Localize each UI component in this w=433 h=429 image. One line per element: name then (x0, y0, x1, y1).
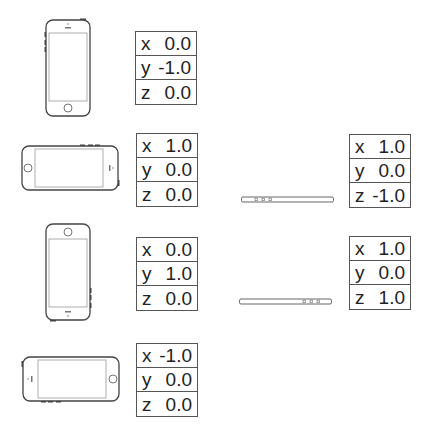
axis-label: z (142, 185, 152, 204)
axis-row-y: y0.0 (350, 261, 410, 285)
axis-row-y: y-1.0 (136, 56, 196, 80)
axis-value: -1.0 (159, 346, 192, 365)
axis-value: 0.0 (166, 289, 192, 308)
axis-value: 0.0 (166, 160, 192, 179)
axis-row-x: x1.0 (350, 135, 410, 159)
axis-label: y (142, 370, 152, 389)
axis-row-z: z0.0 (137, 182, 197, 206)
axis-label: x (142, 136, 152, 155)
accelerometer-table-landscape-right: x-1.0 y0.0 z0.0 (136, 343, 198, 417)
axis-label: x (141, 34, 151, 53)
axis-value: 0.0 (165, 83, 191, 102)
axis-label: x (355, 239, 365, 258)
axis-label: x (142, 240, 152, 259)
axis-label: y (355, 263, 365, 282)
accelerometer-table-portrait: x0.0 y-1.0 z0.0 (135, 31, 197, 105)
phone-landscape-left-icon (20, 144, 120, 192)
axis-row-x: x0.0 (137, 238, 197, 262)
axis-label: x (142, 346, 152, 365)
axis-row-z: z0.0 (136, 80, 196, 104)
axis-value: -1.0 (158, 58, 191, 77)
axis-label: x (355, 137, 365, 156)
axis-value: 0.0 (165, 34, 191, 53)
axis-value: 1.0 (379, 288, 405, 307)
axis-value: 0.0 (166, 395, 192, 414)
axis-value: 1.0 (379, 137, 405, 156)
phone-landscape-right-icon (21, 355, 121, 403)
accelerometer-table-upside-down: x0.0 y1.0 z0.0 (136, 237, 198, 311)
axis-value: 0.0 (166, 370, 192, 389)
axis-label: z (142, 395, 152, 414)
axis-value: 0.0 (379, 161, 405, 180)
axis-value: 0.0 (379, 263, 405, 282)
axis-value: 1.0 (379, 239, 405, 258)
axis-label: z (355, 186, 365, 205)
axis-label: y (142, 264, 152, 283)
axis-row-x: x1.0 (350, 237, 410, 261)
axis-row-y: y0.0 (350, 159, 410, 183)
axis-row-y: y0.0 (137, 158, 197, 182)
axis-label: z (355, 288, 365, 307)
phone-flat-face-down-icon (241, 196, 335, 204)
axis-row-z: z0.0 (137, 392, 197, 416)
accelerometer-table-face-down: x1.0 y0.0 z-1.0 (349, 134, 411, 208)
axis-row-x: x0.0 (136, 32, 196, 56)
accelerometer-table-landscape-left: x1.0 y0.0 z0.0 (136, 133, 198, 207)
axis-value: 0.0 (166, 240, 192, 259)
phone-flat-face-up-icon (239, 298, 333, 306)
phone-portrait-icon (44, 18, 92, 118)
axis-value: 1.0 (166, 264, 192, 283)
axis-row-y: y0.0 (137, 368, 197, 392)
axis-value: 0.0 (166, 185, 192, 204)
axis-row-y: y1.0 (137, 262, 197, 286)
axis-value: -1.0 (372, 186, 405, 205)
axis-label: y (355, 161, 365, 180)
axis-row-z: z1.0 (350, 285, 410, 309)
phone-portrait-upside-down-icon (44, 222, 92, 322)
axis-label: z (141, 83, 151, 102)
axis-value: 1.0 (166, 136, 192, 155)
axis-label: y (142, 160, 152, 179)
axis-row-x: x1.0 (137, 134, 197, 158)
axis-row-z: z0.0 (137, 286, 197, 310)
axis-row-x: x-1.0 (137, 344, 197, 368)
axis-label: z (142, 289, 152, 308)
accelerometer-table-face-up: x1.0 y0.0 z1.0 (349, 236, 411, 310)
axis-label: y (141, 58, 151, 77)
axis-row-z: z-1.0 (350, 183, 410, 207)
